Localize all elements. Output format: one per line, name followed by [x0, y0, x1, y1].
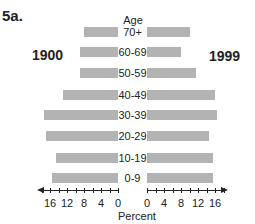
tick-label-left: 16 [42, 197, 58, 209]
axis-tick [181, 188, 182, 193]
axis-tick [224, 188, 225, 193]
bar-1900-30-39 [44, 110, 118, 120]
year-label-1999: 1999 [209, 48, 240, 64]
axis-tick [42, 188, 43, 193]
age-label: 40-49 [118, 90, 147, 101]
axis-tick [118, 188, 119, 193]
age-label: 70+ [118, 27, 147, 38]
axis-tick [173, 188, 174, 193]
axis-tick [190, 188, 191, 193]
axis-tick [76, 188, 77, 193]
tick-label-left: 0 [110, 197, 126, 209]
bar-1900-40-49 [63, 90, 118, 100]
axis-tick [207, 188, 208, 193]
age-axis-title: Age [120, 14, 146, 26]
axis-tick [84, 188, 85, 193]
tick-label-right: 4 [156, 197, 172, 209]
bar-1900-70+ [84, 27, 118, 37]
figure-label: 5a. [2, 7, 23, 24]
axis-tick [215, 188, 216, 193]
year-label-1900: 1900 [32, 47, 63, 63]
tick-label-left: 12 [59, 197, 75, 209]
age-label: 30-39 [118, 110, 147, 121]
tick-label-right: 16 [207, 197, 223, 209]
axis-tick [110, 188, 111, 193]
axis-tick [198, 188, 199, 193]
axis-tick [59, 188, 60, 193]
age-label: 60-69 [118, 47, 147, 58]
age-label: 50-59 [118, 68, 147, 79]
bar-1900-60-69 [80, 47, 118, 57]
axis-tick [93, 188, 94, 193]
bar-1999-0-9 [147, 173, 213, 183]
x-axis-label: Percent [118, 210, 147, 222]
age-label: 0-9 [118, 173, 147, 184]
tick-label-left: 8 [76, 197, 92, 209]
x-axis-line-right [147, 190, 223, 191]
age-label: 20-29 [118, 131, 147, 142]
age-label: 10-19 [118, 153, 147, 164]
bar-1900-0-9 [52, 173, 118, 183]
x-axis-line-left [40, 190, 119, 191]
bar-1900-10-19 [56, 153, 118, 163]
bar-1900-50-59 [80, 68, 118, 78]
tick-label-right: 0 [139, 197, 155, 209]
bar-1999-30-39 [147, 110, 217, 120]
tick-label-right: 12 [190, 197, 206, 209]
bar-1999-20-29 [147, 131, 209, 141]
bar-1999-70+ [147, 27, 190, 37]
tick-label-left: 4 [93, 197, 109, 209]
tick-label-right: 8 [173, 197, 189, 209]
axis-tick [50, 188, 51, 193]
bar-1999-50-59 [147, 68, 196, 78]
bar-1900-20-29 [46, 131, 118, 141]
axis-tick [101, 188, 102, 193]
axis-tick [67, 188, 68, 193]
axis-tick [164, 188, 165, 193]
axis-tick [156, 188, 157, 193]
axis-tick [147, 188, 148, 193]
bar-1999-40-49 [147, 90, 215, 100]
bar-1999-60-69 [147, 47, 181, 57]
bar-1999-10-19 [147, 153, 213, 163]
